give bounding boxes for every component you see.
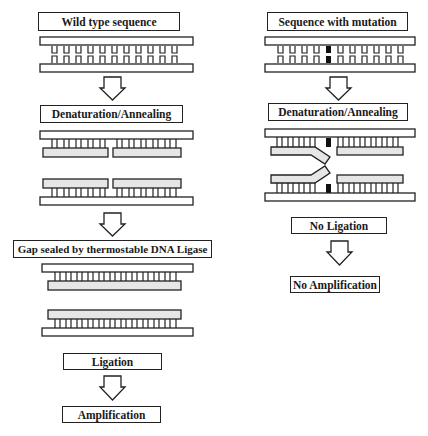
mutation-marker [326,56,331,63]
mismatched-probes-bottom [265,166,415,201]
annealed-probes-top [40,131,193,157]
annealed-probes-bottom [40,179,193,205]
mutation-marker [326,46,331,53]
wild-type-dna [40,37,193,72]
left-denaturation-label: Denaturation/Annealing [40,105,183,123]
ligated-dna-top [42,264,193,290]
mismatched-probes-top [265,129,415,164]
no-ligation-label: No Ligation [291,217,387,234]
gap-sealed-label: Gap sealed by thermostable DNA Ligase [13,240,212,258]
mutation-title: Sequence with mutation [267,12,408,31]
mutation-marker [326,184,331,193]
wild-type-title: Wild type sequence [38,12,180,31]
ligated-dna-bottom [42,310,193,336]
ligation-label: Ligation [63,353,162,370]
mutation-marker [326,138,331,147]
down-arrow-icon [327,241,352,265]
mutant-dna [265,37,415,72]
amplification-label: Amplification [62,406,161,423]
down-arrow-icon [100,213,125,236]
down-arrow-icon [100,77,125,100]
down-arrow-icon [100,376,125,400]
down-arrow-icon [326,77,351,100]
right-denaturation-label: Denaturation/Annealing [268,103,408,121]
no-amplification-label: No Amplification [290,276,380,293]
